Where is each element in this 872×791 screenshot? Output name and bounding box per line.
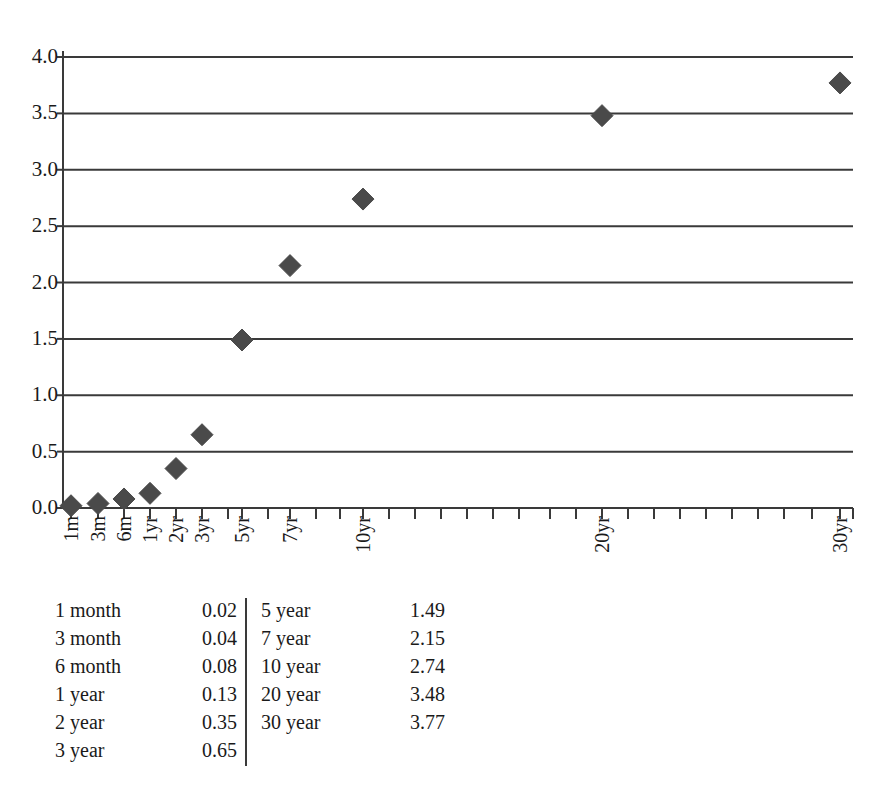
table-row: 1 month0.02	[55, 596, 245, 624]
table-row: 1 year0.13	[55, 680, 245, 708]
table-term: 1 month	[55, 596, 175, 624]
yield-curve-scatter-chart: 1m: 0.023m: 0.046m: 0.081yr: 0.132yr: 0.…	[0, 0, 872, 585]
table-row: 30 year3.77	[261, 708, 491, 736]
x-tick-label-20yr: 20yr	[592, 516, 612, 606]
table-row: 5 year1.49	[261, 596, 491, 624]
table-term: 10 year	[261, 652, 381, 680]
table-column-divider	[245, 598, 247, 766]
table-term: 5 year	[261, 596, 381, 624]
table-value: 0.08	[175, 652, 237, 680]
x-tick-label-1m: 1m	[61, 516, 81, 606]
x-tick-label-1yr: 1yr	[140, 516, 160, 606]
x-axis-tick-labels: 1m3m6m1yr2yr3yr5yr7yr10yr20yr30yr	[0, 0, 872, 585]
table-row: 3 year0.65	[55, 736, 245, 764]
table-value: 2.74	[381, 652, 445, 680]
table-value: 0.13	[175, 680, 237, 708]
table-term: 1 year	[55, 680, 175, 708]
table-value: 0.04	[175, 624, 237, 652]
table-term: 7 year	[261, 624, 381, 652]
table-row: 20 year3.48	[261, 680, 491, 708]
table-row: 6 month0.08	[55, 652, 245, 680]
figure-page: 1m: 0.023m: 0.046m: 0.081yr: 0.132yr: 0.…	[0, 0, 872, 791]
table-row: 7 year2.15	[261, 624, 491, 652]
x-tick-label-10yr: 10yr	[353, 516, 373, 606]
table-term: 6 month	[55, 652, 175, 680]
table-value: 0.02	[175, 596, 237, 624]
table-value: 3.48	[381, 680, 445, 708]
table-value: 0.35	[175, 708, 237, 736]
table-term: 3 month	[55, 624, 175, 652]
table-term: 3 year	[55, 736, 175, 764]
x-tick-label-2yr: 2yr	[166, 516, 186, 606]
table-row: 2 year0.35	[55, 708, 245, 736]
x-tick-label-5yr: 5yr	[232, 516, 252, 606]
yield-data-table: 1 month0.023 month0.046 month0.081 year0…	[55, 596, 515, 781]
table-term: 2 year	[55, 708, 175, 736]
x-tick-label-6m: 6m	[114, 516, 134, 606]
table-column-right: 5 year1.497 year2.1510 year2.7420 year3.…	[261, 596, 491, 736]
table-value: 2.15	[381, 624, 445, 652]
table-row: 10 year2.74	[261, 652, 491, 680]
table-value: 1.49	[381, 596, 445, 624]
table-row: 3 month0.04	[55, 624, 245, 652]
table-value: 3.77	[381, 708, 445, 736]
table-term: 30 year	[261, 708, 381, 736]
x-tick-label-7yr: 7yr	[280, 516, 300, 606]
table-column-left: 1 month0.023 month0.046 month0.081 year0…	[55, 596, 245, 764]
x-tick-label-30yr: 30yr	[830, 516, 850, 606]
x-tick-label-3m: 3m	[88, 516, 108, 606]
table-value: 0.65	[175, 736, 237, 764]
x-tick-label-3yr: 3yr	[192, 516, 212, 606]
table-term: 20 year	[261, 680, 381, 708]
